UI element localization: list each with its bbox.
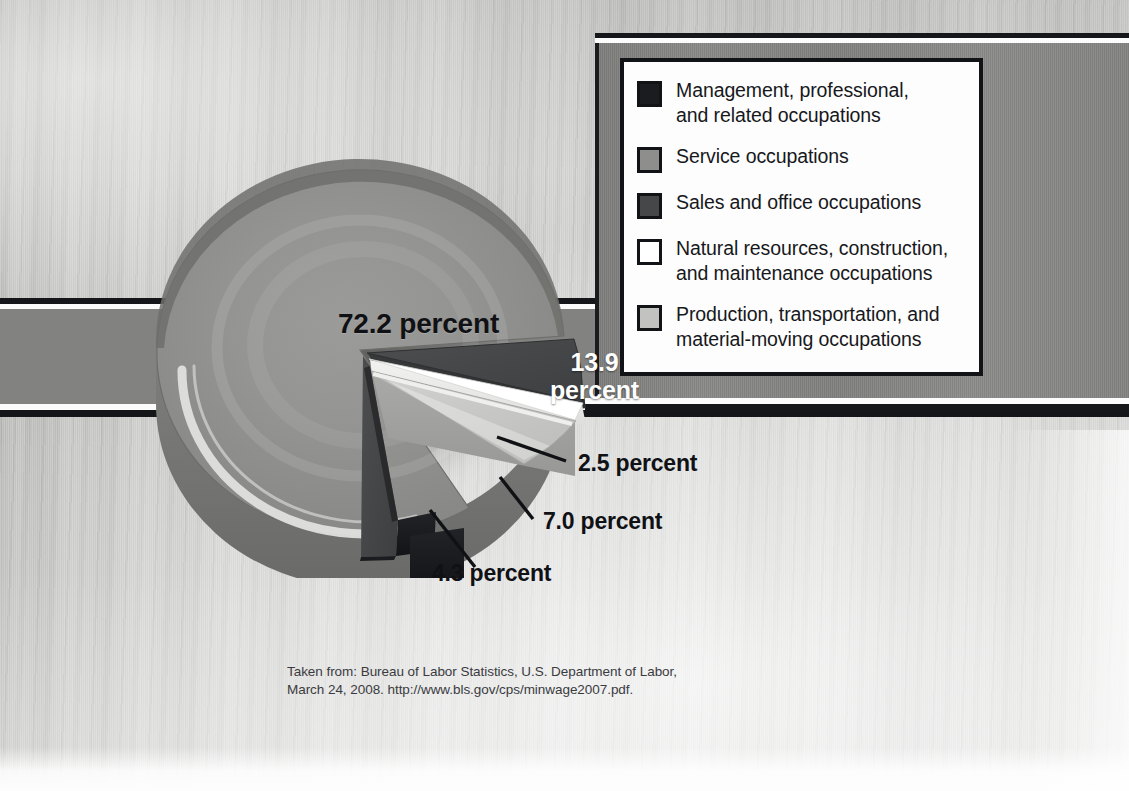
legend-label-sales: Sales and office occupations (676, 190, 921, 215)
legend-swatch-natural-resources (637, 239, 662, 265)
leader-line-2-5 (497, 437, 566, 461)
legend-item-management: Management, professional, and related oc… (637, 78, 969, 127)
callout-management: 4.3 percent (432, 560, 551, 587)
legend-swatch-production (637, 305, 662, 331)
legend-swatch-management (637, 81, 662, 107)
chart-page: 72.2 percent 13.9 percent 2.5 percent 7.… (0, 0, 1129, 791)
legend-label-natural-resources: Natural resources, construction, and mai… (676, 236, 948, 285)
legend-swatch-sales (637, 193, 662, 219)
callout-natural-resources: 2.5 percent (578, 450, 697, 477)
leader-line-4-3 (430, 510, 475, 567)
legend-item-production: Production, transportation, and material… (637, 302, 969, 351)
legend-box: Management, professional, and related oc… (620, 58, 983, 376)
legend-swatch-service (637, 147, 662, 173)
legend-item-sales: Sales and office occupations (637, 190, 969, 219)
legend-label-management: Management, professional, and related oc… (676, 78, 909, 127)
legend-item-service: Service occupations (637, 144, 969, 173)
legend-label-service: Service occupations (676, 144, 849, 169)
legend-label-production: Production, transportation, and material… (676, 302, 940, 351)
callout-production: 7.0 percent (543, 508, 662, 535)
source-attribution: Taken from: Bureau of Labor Statistics, … (287, 663, 677, 699)
leader-line-7-0 (500, 477, 533, 519)
legend-item-natural-resources: Natural resources, construction, and mai… (637, 236, 969, 285)
